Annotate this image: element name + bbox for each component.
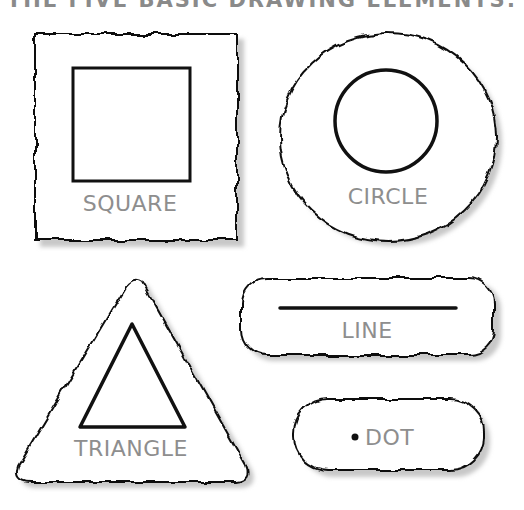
circle-card: CIRCLE (280, 33, 502, 246)
circle-label: CIRCLE (348, 184, 429, 209)
dot-label: DOT (365, 425, 414, 450)
square-card: SQUARE (35, 34, 244, 247)
line-label: LINE (341, 318, 392, 343)
line-card: LINE (241, 278, 501, 361)
square-label: SQUARE (83, 191, 178, 216)
triangle-label: TRIANGLE (73, 436, 188, 461)
triangle-card: TRIANGLE (17, 280, 254, 488)
dot-shape (352, 434, 359, 441)
dot-card: DOT (294, 399, 490, 477)
